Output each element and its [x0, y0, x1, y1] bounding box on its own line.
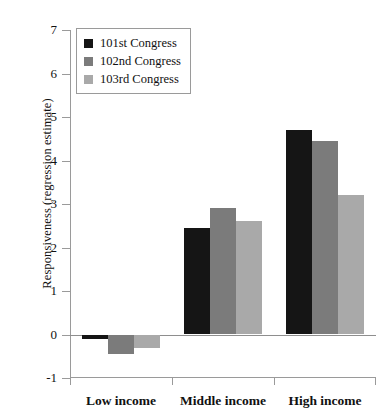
legend-swatch-icon-0 — [84, 39, 93, 48]
x-tick-1 — [172, 378, 173, 385]
y-tick-1: 6 — [62, 74, 70, 75]
y-tick-7: 0 — [62, 335, 70, 336]
bar-1-0 — [184, 228, 210, 335]
y-tick-0: 7 — [62, 30, 70, 31]
legend-item-1: 102nd Congress — [84, 52, 181, 70]
bar-2-0 — [286, 130, 312, 334]
y-tick-label-3: 4 — [51, 152, 58, 169]
y-tick-label-0: 7 — [51, 21, 58, 38]
legend-item-2: 103rd Congress — [84, 70, 181, 88]
x-axis-label-1: Middle income — [172, 393, 274, 409]
bar-2-1 — [312, 141, 338, 335]
legend-swatch-icon-2 — [84, 75, 93, 84]
bar-0-0 — [82, 335, 108, 339]
legend-item-0: 101st Congress — [84, 34, 181, 52]
y-tick-label-5: 2 — [51, 239, 58, 256]
bar-1-1 — [210, 208, 236, 334]
legend: 101st Congress 102nd Congress 103rd Cong… — [76, 28, 191, 94]
x-tick-2 — [274, 378, 275, 385]
x-tick-0 — [70, 378, 71, 385]
y-tick-label-4: 3 — [51, 195, 58, 212]
bar-1-2 — [236, 221, 262, 334]
y-tick-label-1: 6 — [51, 65, 58, 82]
y-tick-5: 2 — [62, 248, 70, 249]
y-tick-label-2: 5 — [51, 108, 58, 125]
legend-label-2: 103rd Congress — [100, 72, 179, 87]
y-tick-8: -1 — [62, 378, 70, 379]
y-tick-2: 5 — [62, 117, 70, 118]
y-tick-label-8: -1 — [46, 369, 57, 386]
bar-0-1 — [108, 335, 134, 355]
x-axis-label-2: High income — [274, 393, 376, 409]
y-tick-label-7: 0 — [51, 326, 58, 343]
bar-chart-figure: Responsiveness (regression estimate) 765… — [0, 0, 391, 418]
y-tick-3: 4 — [62, 161, 70, 162]
x-tick-3 — [375, 378, 376, 385]
x-axis-line — [70, 377, 376, 378]
y-tick-6: 1 — [62, 291, 70, 292]
legend-label-0: 101st Congress — [100, 36, 177, 51]
y-tick-4: 3 — [62, 204, 70, 205]
bar-2-2 — [338, 195, 364, 334]
legend-label-1: 102nd Congress — [100, 54, 181, 69]
y-tick-label-6: 1 — [51, 282, 58, 299]
bar-0-2 — [134, 335, 160, 348]
x-axis-label-0: Low income — [70, 393, 172, 409]
legend-swatch-icon-1 — [84, 57, 93, 66]
